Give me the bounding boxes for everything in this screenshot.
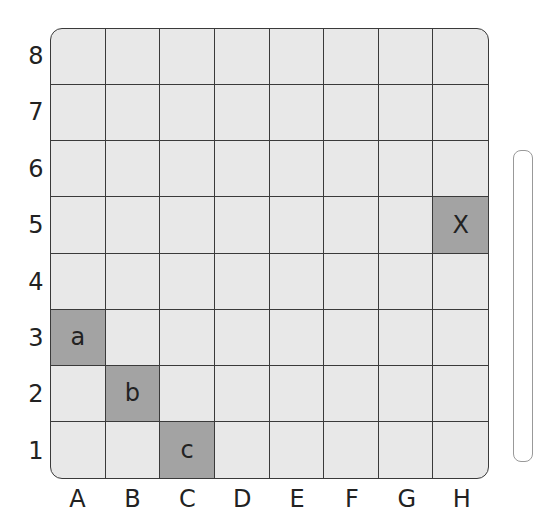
grid-cell-E6: [270, 141, 325, 197]
grid-cell-B7: [106, 85, 161, 141]
row-label: 6: [26, 155, 46, 183]
grid-cell-F6: [324, 141, 379, 197]
column-label: D: [215, 485, 270, 513]
grid-cell-D3: [215, 310, 270, 366]
grid-cell-F3: [324, 310, 379, 366]
grid-cell-B3: [106, 310, 161, 366]
grid-cell-F1: [324, 422, 379, 478]
grid-board: Xabc: [50, 28, 489, 479]
row-label: 4: [26, 268, 46, 296]
column-label: H: [434, 485, 489, 513]
grid-cell-D6: [215, 141, 270, 197]
grid-cell-E1: [270, 422, 325, 478]
column-label: A: [50, 485, 105, 513]
grid-cell-F2: [324, 366, 379, 422]
grid-cell-C8: [160, 29, 215, 85]
grid-cell-F8: [324, 29, 379, 85]
grid-cell-B5: [106, 197, 161, 253]
grid-cell-C4: [160, 254, 215, 310]
grid-cell-G7: [379, 85, 434, 141]
grid-cell-E8: [270, 29, 325, 85]
grid-cell-D5: [215, 197, 270, 253]
grid-cell-A6: [51, 141, 106, 197]
grid-cell-G2: [379, 366, 434, 422]
grid-cell-H8: [433, 29, 488, 85]
grid-cell-H1: [433, 422, 488, 478]
grid-cell-A5: [51, 197, 106, 253]
grid-cell-H6: [433, 141, 488, 197]
grid-cell-A3: a: [51, 310, 106, 366]
grid-cell-H7: [433, 85, 488, 141]
grid-cell-D2: [215, 366, 270, 422]
grid-cell-D7: [215, 85, 270, 141]
grid-cell-C3: [160, 310, 215, 366]
column-label: E: [270, 485, 325, 513]
grid-cell-G8: [379, 29, 434, 85]
grid-cell-H5: X: [433, 197, 488, 253]
grid-cell-B4: [106, 254, 161, 310]
grid-cell-G5: [379, 197, 434, 253]
row-label: 7: [26, 98, 46, 126]
grid-cell-H2: [433, 366, 488, 422]
grid-cell-F7: [324, 85, 379, 141]
grid-cell-E2: [270, 366, 325, 422]
grid-cell-F4: [324, 254, 379, 310]
grid-cell-C6: [160, 141, 215, 197]
grid-cell-G1: [379, 422, 434, 478]
grid-cell-E7: [270, 85, 325, 141]
grid-cell-G3: [379, 310, 434, 366]
grid-cell-B1: [106, 422, 161, 478]
grid-cell-A2: [51, 366, 106, 422]
grid-cell-A4: [51, 254, 106, 310]
grid-cell-E4: [270, 254, 325, 310]
grid-cell-G6: [379, 141, 434, 197]
grid-cell-A1: [51, 422, 106, 478]
grid-cell-A7: [51, 85, 106, 141]
grid-cell-B8: [106, 29, 161, 85]
column-label: C: [160, 485, 215, 513]
grid-cell-C2: [160, 366, 215, 422]
grid-cell-C7: [160, 85, 215, 141]
grid-cell-G4: [379, 254, 434, 310]
grid-cell-B6: [106, 141, 161, 197]
column-label: G: [379, 485, 434, 513]
column-label: F: [325, 485, 380, 513]
column-label: B: [105, 485, 160, 513]
row-label: 5: [26, 211, 46, 239]
grid-cell-D4: [215, 254, 270, 310]
grid-cell-E5: [270, 197, 325, 253]
grid-cell-F5: [324, 197, 379, 253]
row-label: 8: [26, 42, 46, 70]
grid-cell-C1: c: [160, 422, 215, 478]
grid-cell-H3: [433, 310, 488, 366]
grid-cell-H4: [433, 254, 488, 310]
row-label: 3: [26, 324, 46, 352]
grid-cell-E3: [270, 310, 325, 366]
side-panel: [513, 150, 533, 462]
grid-cell-D1: [215, 422, 270, 478]
row-label: 1: [26, 437, 46, 465]
grid-cell-C5: [160, 197, 215, 253]
grid-cell-D8: [215, 29, 270, 85]
grid-cell-A8: [51, 29, 106, 85]
grid-cell-B2: b: [106, 366, 161, 422]
row-label: 2: [26, 380, 46, 408]
